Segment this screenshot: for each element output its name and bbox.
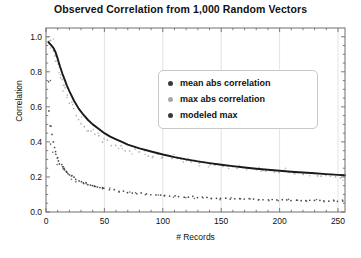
y-axis-label: Correlation (14, 56, 24, 146)
legend-item[interactable]: modeled max (165, 107, 311, 123)
x-axis-label: # Records (46, 232, 345, 242)
legend-label: mean abs correlation (180, 78, 271, 88)
legend-item[interactable]: mean abs correlation (165, 75, 311, 91)
x-axis-ticklabels: 050100150200250 (0, 216, 361, 232)
figure: Observed Correlation from 1,000 Random V… (0, 0, 361, 258)
legend-marker-mean-abs-correlation (168, 81, 173, 86)
x-tick-label: 50 (89, 216, 119, 226)
legend-label: max abs correlation (180, 94, 265, 104)
y-tick-label: 1.0 (16, 32, 42, 42)
x-tick-label: 100 (148, 216, 178, 226)
x-tick-label: 200 (265, 216, 295, 226)
x-tick-label: 0 (31, 216, 61, 226)
legend-marker-modeled-max (168, 113, 173, 118)
legend: mean abs correlation max abs correlation… (158, 70, 318, 129)
x-tick-label: 150 (206, 216, 236, 226)
y-tick-label: 0.2 (16, 172, 42, 182)
legend-marker-max-abs-correlation (168, 97, 173, 102)
legend-item[interactable]: max abs correlation (165, 91, 311, 107)
legend-label: modeled max (180, 110, 238, 120)
x-tick-label: 250 (323, 216, 353, 226)
